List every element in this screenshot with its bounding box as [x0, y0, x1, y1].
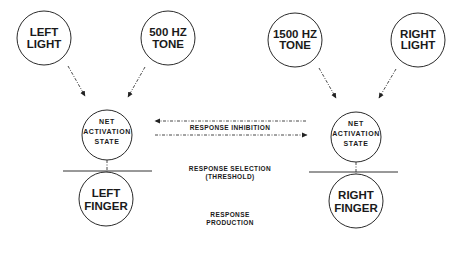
node-label: TONE	[279, 39, 311, 51]
label-response-inhibition: RESPONSE INHIBITION	[190, 124, 271, 131]
label-threshold: (THRESHOLD)	[205, 173, 254, 181]
arrow-500hz-to-net	[128, 67, 145, 97]
arrow-right-light-to-net	[379, 69, 396, 98]
node-label: LIGHT	[27, 38, 62, 50]
arrow-left-light-to-net	[68, 66, 85, 96]
label-response: RESPONSE	[210, 211, 250, 218]
node-left-net-activation: NET ACTIVATION STATE	[82, 110, 132, 160]
node-label: NET	[99, 118, 115, 125]
node-1500hz-tone: 1500 HZ TONE	[268, 13, 322, 67]
node-label: ACTIVATION	[332, 130, 380, 137]
node-500hz-tone: 500 HZ TONE	[141, 11, 195, 65]
node-label: ACTIVATION	[83, 128, 131, 135]
node-label: FINGER	[84, 200, 128, 212]
label-production: PRODUCTION	[206, 219, 254, 226]
label-response-selection: RESPONSE SELECTION	[189, 165, 271, 172]
node-label: FINGER	[334, 202, 378, 214]
node-right-light: RIGHT LIGHT	[391, 13, 445, 67]
node-label: 500 HZ	[149, 26, 187, 38]
node-label: STATE	[95, 138, 120, 145]
response-selection-diagram: LEFT LIGHT 500 HZ TONE 1500 HZ TONE RIGH…	[0, 0, 462, 256]
node-label: RIGHT	[338, 189, 374, 201]
node-label: LEFT	[92, 187, 121, 199]
arrow-1500hz-to-net	[319, 68, 336, 98]
node-label: LEFT	[30, 26, 59, 38]
node-label: TONE	[152, 38, 184, 50]
node-label: LIGHT	[401, 39, 436, 51]
node-right-finger: RIGHT FINGER	[329, 174, 383, 228]
node-label: NET	[348, 120, 364, 127]
node-label: STATE	[344, 140, 369, 147]
node-right-net-activation: NET ACTIVATION STATE	[331, 112, 381, 162]
node-left-finger: LEFT FINGER	[79, 172, 133, 226]
node-left-light: LEFT LIGHT	[17, 11, 71, 65]
